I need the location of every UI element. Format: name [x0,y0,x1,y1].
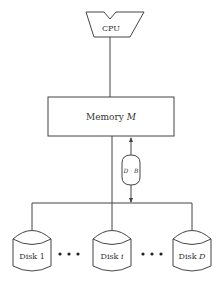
arrowhead-down [129,198,133,203]
diagram-svg: CPU Memory M D · B Disk 1 Disk i Disk D [0,0,223,283]
parallel-disk-model-diagram: CPU Memory M D · B Disk 1 Disk i Disk D [0,0,223,283]
disk-1 [13,231,51,272]
disk-d [173,231,211,272]
disk-1-label: Disk 1 [19,252,45,261]
arrowhead-up [129,137,133,142]
block-transfer-label: D · B [123,167,140,174]
disk-i-label: Disk i [100,252,123,261]
disk-i [93,231,131,272]
cpu-label: CPU [102,24,120,33]
disk-d-label: Disk D [179,252,206,261]
memory-label: Memory M [86,112,137,122]
